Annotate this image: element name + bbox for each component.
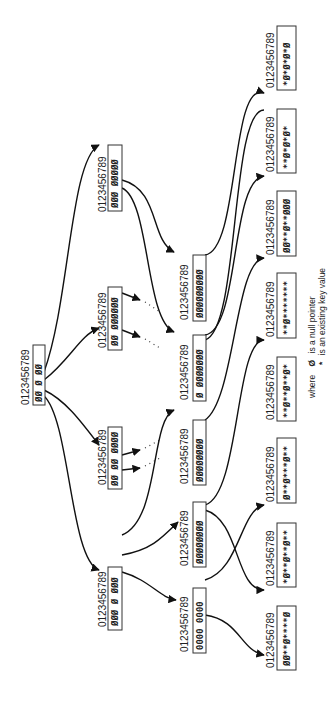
legend-null-text: is a null pointer [307, 296, 317, 353]
leaf2-contents: **Ø*Ø*Ø* [282, 126, 292, 169]
legend: where Ø is a null pointer * is an existi… [307, 268, 327, 399]
leaf7-contents: *Ø**Ø**Ø** [282, 530, 292, 584]
leaf4-index-label: 0123456789 [265, 281, 276, 337]
root-contents: ØØ Ø ØØ [34, 363, 44, 403]
key-value-symbol: * [317, 361, 327, 365]
leaf-5: 0123456789 **Ø**Ø**Ø* [265, 357, 296, 421]
edge-l1d-l2d [122, 522, 178, 555]
edge-l2e-leaf8 [205, 615, 264, 655]
l2e-contents: 0000 0000 [195, 601, 205, 650]
l2a-index-label: 0123456789 [179, 264, 190, 320]
leaf-3: 0123456789 ØØ**Ø**ØØØ [265, 191, 296, 256]
leaf-1: 0123456789 *Ø*Ø*Ø*Ø [265, 26, 296, 90]
l1c-contents: ØØ ØØ ØØØØ [110, 431, 120, 487]
edge-root-l1a [44, 145, 99, 372]
l1a-contents: ØØØ ØØØØØ [110, 159, 120, 209]
l2b-index-label: 0123456789 [179, 344, 190, 400]
leaf-8: 0123456789 ØØ**Ø****Ø [265, 606, 296, 670]
legend-line1: where Ø is a null pointer [307, 296, 317, 399]
l2c-index-label: 0123456789 [179, 428, 190, 484]
l2d-contents: ØØØØØØØØ [195, 520, 205, 565]
leaf8-index-label: 0123456789 [265, 612, 276, 668]
leaf3-contents: ØØ**Ø**ØØØ [282, 198, 292, 254]
leaf1-index-label: 0123456789 [265, 32, 276, 88]
edge-root-l1c [44, 390, 99, 445]
edge-l1a-l2b [122, 188, 174, 332]
level2-node-e: 0123456789 0000 0000 [179, 588, 206, 653]
edge-l2b-leaf3 [205, 176, 264, 335]
level2-node-d: 0123456789 ØØØØØØØØ [179, 502, 206, 567]
leaf6-contents: Ø**Ø***Ø** [282, 446, 292, 501]
edge-l1c-1 [122, 450, 140, 455]
l1c-index-label: 0123456789 [97, 429, 108, 485]
level2-node-b: 0123456789 Ø ØØØØØØØ [179, 335, 206, 401]
level1-node-c: 0123456789 ØØ ØØ ØØØØ [97, 427, 122, 489]
leaf-7: 0123456789 *Ø**Ø**Ø** [265, 523, 296, 587]
leaf2-index-label: 0123456789 [265, 116, 276, 172]
leaf5-index-label: 0123456789 [265, 364, 276, 420]
legend-where: where [307, 375, 317, 399]
dots-l1b-2 [145, 339, 160, 348]
leaf-2: 0123456789 **Ø*Ø*Ø* [265, 109, 296, 173]
leaf7-index-label: 0123456789 [265, 530, 276, 586]
dots-l1c-2 [145, 458, 160, 466]
edge-l1b-2 [122, 330, 140, 337]
leaf8-contents: ØØ**Ø****Ø [282, 611, 292, 667]
leaf5-contents: **Ø**Ø**Ø* [282, 364, 292, 418]
l1d-contents: ØØØ Ø ØØØ [110, 577, 120, 627]
edge-l2e-leaf6 [205, 505, 264, 580]
edge-l2b-leaf2 [205, 110, 264, 340]
edge-l1b-1 [122, 293, 140, 300]
legend-key-text: is an existing key value [317, 268, 327, 356]
level1-node-d: 0123456789 ØØØ Ø ØØØ [97, 567, 122, 630]
edge-root-l1b [44, 328, 99, 380]
l2d-index-label: 0123456789 [179, 510, 190, 566]
null-pointer-symbol: Ø [307, 359, 317, 366]
leaf-6: 0123456789 Ø**Ø***Ø** [265, 438, 296, 503]
l2c-contents: ØØØØØØØØ [195, 438, 205, 483]
l1b-index-label: 0123456789 [97, 292, 108, 348]
leaf3-index-label: 0123456789 [265, 199, 276, 255]
l1a-index-label: 0123456789 [97, 156, 108, 212]
level2-node-c: 0123456789 ØØØØØØØØ [179, 420, 206, 485]
l1d-index-label: 0123456789 [97, 571, 108, 627]
legend-line2: * is an existing key value [317, 268, 327, 365]
leaf-4: 0123456789 **Ø******* [265, 273, 296, 338]
edge-l1a-l2a [122, 180, 174, 252]
edge-l1d-l2c [122, 410, 174, 535]
edge-root-l1d [44, 396, 99, 570]
edge-l1c-2 [122, 468, 140, 470]
level1-node-a: 0123456789 ØØØ ØØØØØ [97, 145, 122, 212]
l2e-index-label: 0123456789 [179, 596, 190, 652]
level1-node-b: 0123456789 ØØ ØØØØØØ [97, 287, 122, 350]
root-node: 0123456789 ØØ Ø ØØ [20, 345, 45, 405]
l1b-contents: ØØ ØØØØØØ [110, 297, 120, 347]
edges [44, 92, 264, 655]
l2b-contents: Ø ØØØØØØØ [195, 349, 205, 399]
edge-l2d-leaf5 [205, 340, 264, 505]
l2a-contents: ØØØØØØØØØ [195, 269, 205, 319]
trie-diagram: 0123456789 ØØ Ø ØØ 0123456789 ØØØ ØØØØØ … [0, 0, 334, 703]
edge-l1d-l2e [122, 572, 176, 600]
level2-node-a: 0123456789 ØØØØØØØØØ [179, 255, 206, 321]
edge-l2c-leaf4 [205, 258, 264, 420]
leaf4-contents: **Ø******* [282, 281, 292, 335]
leaf6-index-label: 0123456789 [265, 446, 276, 502]
root-index-label: 0123456789 [20, 349, 31, 405]
leaf1-contents: *Ø*Ø*Ø*Ø [282, 42, 292, 86]
